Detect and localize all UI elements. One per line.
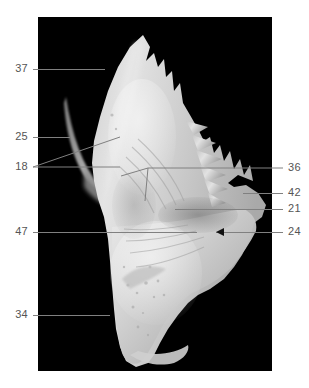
callout-label-34: 34 <box>0 309 28 320</box>
callout-label-24: 24 <box>288 226 301 237</box>
callout-label-21: 21 <box>288 203 301 214</box>
callout-label-42: 42 <box>288 187 301 198</box>
callout-label-18: 18 <box>0 161 28 172</box>
specimen-photo-panel <box>38 17 272 371</box>
anatomical-figure: 37 25 18 47 34 36 42 21 24 <box>0 0 309 388</box>
bone-specimen-icon <box>38 17 272 371</box>
callout-label-25: 25 <box>0 131 28 142</box>
callout-label-47: 47 <box>0 226 28 237</box>
callout-label-36: 36 <box>288 162 301 173</box>
callout-label-37: 37 <box>0 63 28 74</box>
